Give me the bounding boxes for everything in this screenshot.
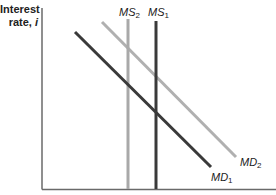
md2-label: MD2 — [240, 156, 262, 170]
ms2-label: MS2 — [119, 6, 141, 20]
money-market-diagram: MS2 MS1 MD2 MD1 — [0, 0, 276, 195]
md1-label: MD1 — [211, 171, 233, 185]
ms1-label: MS1 — [148, 6, 170, 20]
md2-curve — [102, 22, 236, 157]
md1-curve — [75, 32, 211, 167]
